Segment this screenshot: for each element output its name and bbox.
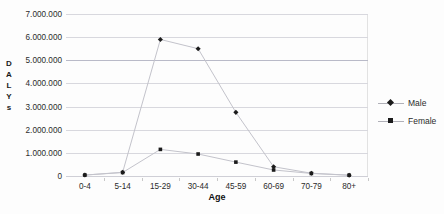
data-point-marker [272,168,276,172]
y-tick-label: 2.000.000 [6,125,62,134]
data-point-marker [347,173,351,177]
legend-swatch [378,98,404,108]
data-point-marker [234,160,238,164]
y-tick-label: 3.000.000 [6,102,62,111]
x-tick-mark [104,178,105,181]
x-tick-label: 0-4 [79,182,91,191]
legend-label: Male [404,98,426,108]
legend-swatch [378,116,404,126]
legend-label: Female [404,116,436,126]
y-tick-label: 6.000.000 [6,33,62,42]
x-axis-title: Age [66,192,368,202]
legend-item-male[interactable]: Male [378,94,442,112]
x-tick-mark [330,178,331,181]
data-series-layer [66,14,368,176]
x-tick-label: 15-29 [150,182,171,191]
data-point-marker [121,171,125,175]
legend-marker-diamond-icon [387,99,394,106]
series-line-female [85,149,349,175]
chart-legend: MaleFemale [378,94,442,130]
data-point-marker [83,173,87,177]
data-point-marker [310,172,314,176]
x-tick-mark [217,178,218,181]
series-line-male [85,39,349,175]
x-tick-mark [142,178,143,181]
x-tick-label: 60-69 [263,182,284,191]
data-point-marker [158,37,163,42]
data-point-marker [159,148,163,152]
x-tick-label: 70-79 [301,182,322,191]
data-point-marker [196,46,201,51]
x-tick-label: 30-44 [188,182,209,191]
x-tick-mark [255,178,256,181]
x-axis-tick-labels: 0-45-1415-2930-4445-5960-6970-7980+ [66,178,368,192]
y-tick-label: 5.000.000 [6,56,62,65]
x-tick-mark [293,178,294,181]
plot-area [66,14,368,176]
x-tick-label: 45-59 [225,182,246,191]
y-tick-label: 7.000.000 [6,10,62,19]
x-tick-mark [179,178,180,181]
x-tick-label: 80+ [342,182,356,191]
dalys-by-age-chart: DALYs 7.000.0006.000.0005.000.0004.000.0… [0,0,444,214]
x-tick-label: 5-14 [114,182,130,191]
legend-marker-square-icon [388,118,393,123]
x-tick-mark [368,178,369,181]
y-tick-label: 0 [6,172,62,181]
y-axis-tick-labels: 7.000.0006.000.0005.000.0004.000.0003.00… [0,0,62,214]
legend-item-female[interactable]: Female [378,112,442,130]
y-tick-label: 1.000.000 [6,148,62,157]
data-point-marker [196,152,200,156]
y-tick-label: 4.000.000 [6,79,62,88]
gridline [66,176,368,177]
